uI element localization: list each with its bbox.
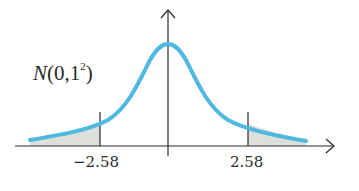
sd-value: 1 [70, 61, 81, 85]
distribution-label: N(0,12) [33, 60, 93, 86]
close-paren: ) [86, 61, 93, 85]
distribution-name: N [33, 61, 47, 85]
open-paren: ( [47, 61, 54, 85]
left-critical-label: −2.58 [73, 153, 119, 171]
mean-value: 0 [54, 61, 65, 85]
normal-curve-diagram [0, 0, 359, 191]
right-critical-label: 2.58 [230, 153, 263, 171]
